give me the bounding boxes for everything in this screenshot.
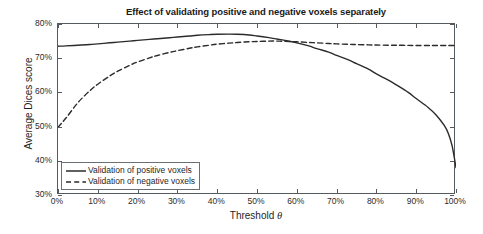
x-tick-mark: [297, 189, 298, 193]
x-tick-mark: [376, 189, 377, 193]
legend-dashed-line-icon: [65, 177, 87, 187]
legend-box: Validation of positive voxels Validation…: [61, 162, 200, 190]
x-tick-label: 80%: [355, 196, 395, 206]
x-tick-label: 70%: [316, 196, 356, 206]
x-tick-mark-top: [138, 24, 139, 28]
x-tick-mark: [456, 189, 457, 193]
y-tick-label: 30%: [22, 189, 52, 199]
series-positive-voxels-line: [58, 34, 456, 168]
y-axis-title: Average Dices score: [23, 24, 34, 184]
legend-solid-line-icon: [65, 166, 87, 176]
x-tick-mark: [337, 189, 338, 193]
legend-label-positive: Validation of positive voxels: [88, 165, 192, 176]
y-tick-mark: [58, 92, 62, 93]
x-axis-title-text: Threshold: [230, 210, 277, 221]
y-tick-mark-right: [450, 127, 454, 128]
y-tick-mark: [58, 24, 62, 25]
x-tick-mark-top: [297, 24, 298, 28]
y-tick-mark: [58, 127, 62, 128]
chart-title: Effect of validating positive and negati…: [57, 6, 455, 17]
x-tick-label: 60%: [276, 196, 316, 206]
x-tick-mark: [217, 189, 218, 193]
legend-label-negative: Validation of negative voxels: [88, 176, 195, 187]
x-tick-mark-top: [456, 24, 457, 28]
x-tick-mark-top: [217, 24, 218, 28]
x-tick-mark: [257, 189, 258, 193]
x-tick-label: 50%: [236, 196, 276, 206]
x-tick-mark: [416, 189, 417, 193]
theta-symbol: θ: [277, 210, 282, 221]
x-tick-label: 30%: [156, 196, 196, 206]
x-tick-label: 20%: [117, 196, 157, 206]
x-axis-title: Threshold θ: [57, 210, 455, 221]
y-tick-mark-right: [450, 92, 454, 93]
x-tick-label: 100%: [435, 196, 475, 206]
x-tick-mark-top: [376, 24, 377, 28]
legend-item-positive: Validation of positive voxels: [65, 165, 195, 176]
x-tick-mark: [58, 189, 59, 193]
x-tick-mark-top: [337, 24, 338, 28]
y-tick-mark-right: [450, 161, 454, 162]
chart-figure: Effect of validating positive and negati…: [0, 0, 483, 234]
y-tick-mark: [58, 58, 62, 59]
x-tick-mark-top: [257, 24, 258, 28]
x-tick-label: 40%: [196, 196, 236, 206]
legend-item-negative: Validation of negative voxels: [65, 176, 195, 187]
y-tick-mark-right: [450, 58, 454, 59]
x-tick-mark-top: [98, 24, 99, 28]
x-tick-label: 90%: [395, 196, 435, 206]
x-tick-label: 10%: [77, 196, 117, 206]
x-tick-mark-top: [177, 24, 178, 28]
y-tick-mark-right: [450, 24, 454, 25]
x-tick-mark-top: [416, 24, 417, 28]
